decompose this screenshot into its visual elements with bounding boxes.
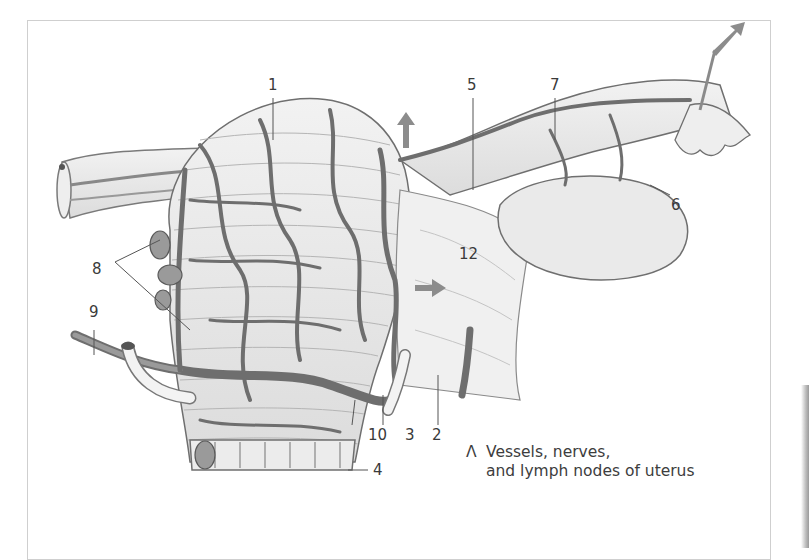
- caption-line-2: and lymph nodes of uterus: [466, 462, 695, 481]
- panel-letter: Λ: [466, 443, 486, 462]
- label-2: 2: [432, 428, 442, 443]
- label-1: 1: [268, 78, 278, 93]
- caption-line-1: Vessels, nerves,: [486, 443, 610, 461]
- figure-caption: ΛVessels, nerves, and lymph nodes of ute…: [466, 443, 695, 481]
- label-8: 8: [92, 262, 102, 277]
- label-10: 10: [368, 428, 387, 443]
- label-12: 12: [459, 247, 478, 262]
- label-3: 3: [405, 428, 415, 443]
- label-9: 9: [89, 305, 99, 320]
- label-5: 5: [467, 78, 477, 93]
- label-6: 6: [671, 198, 681, 213]
- label-4: 4: [373, 463, 383, 478]
- label-7: 7: [550, 78, 560, 93]
